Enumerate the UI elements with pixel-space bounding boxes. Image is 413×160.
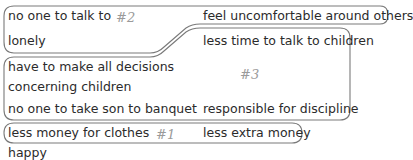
- item-have-to-make-all-decisions: have to make all decisions: [8, 61, 174, 74]
- item-responsible-for-discipline: responsible for discipline: [203, 103, 359, 116]
- item-feel-uncomfortable: feel uncomfortable around others: [203, 10, 413, 23]
- group-1-tag: #1: [156, 128, 175, 141]
- group-2-tag: #2: [116, 11, 135, 24]
- item-happy: happy: [8, 147, 47, 160]
- item-no-one-to-talk-to: no one to talk to: [8, 10, 111, 23]
- item-less-time-to-talk: less time to talk to children: [203, 35, 374, 48]
- item-lonely: lonely: [8, 35, 46, 48]
- item-concerning-children: concerning children: [8, 81, 131, 94]
- group-3-tag: #3: [240, 68, 259, 81]
- item-less-extra-money: less extra money: [203, 127, 311, 140]
- item-no-one-to-take-son: no one to take son to banquet: [8, 103, 197, 116]
- item-less-money-for-clothes: less money for clothes: [8, 127, 149, 140]
